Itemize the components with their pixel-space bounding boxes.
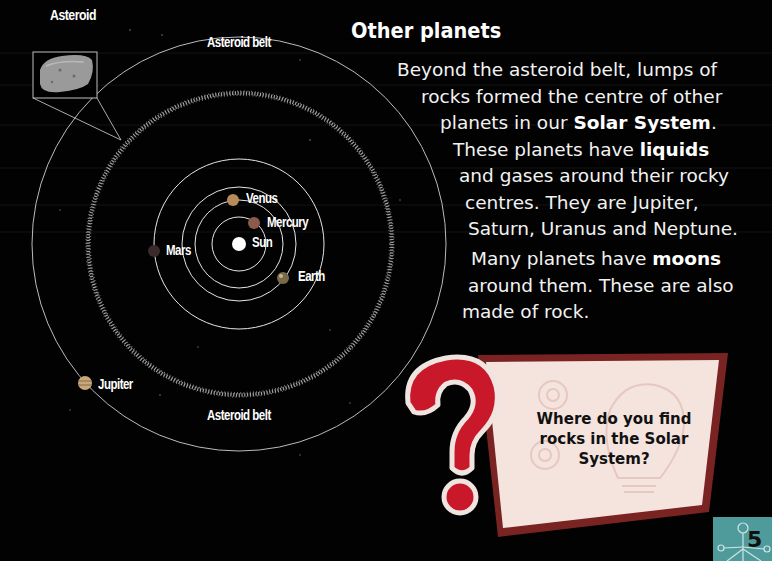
para1-line1: Beyond the asteroid belt, lumps of	[397, 57, 738, 84]
label-earth: Earth	[298, 268, 325, 284]
jupiter-icon	[78, 376, 92, 390]
para1-line7: Saturn, Uranus and Neptune.	[468, 216, 738, 243]
mercury-icon	[248, 217, 260, 229]
label-venus: Venus	[246, 190, 277, 206]
para1-line3: planets in our Solar System.	[440, 110, 738, 137]
mars-icon	[148, 245, 160, 257]
label-jupiter: Jupiter	[98, 376, 133, 392]
page-number: 5	[747, 527, 762, 552]
paragraph-2: Many planets have moons around them. The…	[462, 246, 734, 326]
para2-line1: Many planets have moons	[471, 246, 734, 273]
para1-line2: rocks formed the centre of other	[421, 84, 738, 111]
para1-line6: centres. They are Jupiter,	[465, 190, 738, 217]
question-text: Where do you find rocks in the Solar Sys…	[528, 409, 700, 469]
para1-line5: and gases around their rocky	[459, 163, 738, 190]
label-sun: Sun	[252, 234, 272, 250]
sun-icon	[232, 237, 246, 251]
para2-line2: around them. These are also	[468, 273, 734, 300]
venus-icon	[227, 194, 239, 206]
question-mark-icon	[408, 357, 498, 473]
question-mark-dot	[444, 481, 476, 513]
page-number-tab: 5	[713, 517, 772, 561]
para2-line3: made of rock.	[462, 299, 734, 326]
para1-line4: These planets have liquids	[453, 137, 738, 164]
question-line2: rocks in the Solar	[528, 429, 700, 449]
question-line1: Where do you find	[528, 409, 700, 429]
book-page: Asteroid Asteroid belt Venus Mercury Sun…	[0, 0, 772, 561]
label-mercury: Mercury	[267, 214, 308, 230]
section-heading: Other planets	[351, 18, 501, 43]
label-asteroid: Asteroid	[50, 6, 96, 23]
question-line3: System?	[528, 449, 700, 469]
paragraph-1: Beyond the asteroid belt, lumps of rocks…	[397, 57, 738, 243]
earth-highlight	[279, 274, 283, 278]
label-asteroid-belt-bottom: Asteroid belt	[207, 407, 271, 423]
label-mars: Mars	[166, 242, 191, 258]
label-asteroid-belt-top: Asteroid belt	[207, 34, 271, 50]
earth-icon	[277, 272, 289, 284]
molecule-icon	[713, 517, 772, 561]
